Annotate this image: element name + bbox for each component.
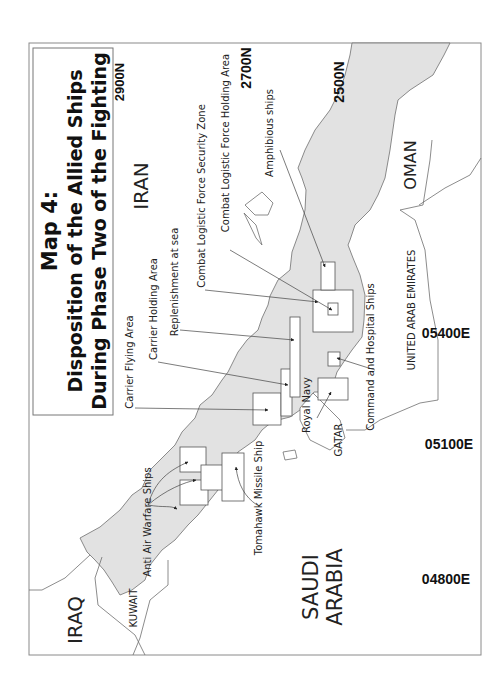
label-carrier-holding: Carrier Holding Area	[148, 258, 159, 360]
coord-05400e: 05400E	[422, 325, 470, 341]
country-oman: OMAN	[401, 140, 420, 189]
label-clf-holding: Combat Logistic Force Holding Area	[220, 54, 231, 232]
label-amphibious: Amphibious ships	[264, 89, 275, 177]
coord-2900n: 2900N	[112, 63, 127, 101]
zone-royal-navy	[318, 378, 348, 400]
country-iran: IRAN	[129, 162, 153, 210]
label-replenishment: Replenishment at sea	[169, 228, 180, 337]
zone-carrier-flying	[253, 393, 281, 425]
title-line-2: Disposition of the Allied Ships	[64, 70, 86, 393]
country-kuwait: KUWAIT	[128, 588, 139, 628]
country-uae: UNITED ARAB EMIRATES	[406, 250, 417, 371]
country-saudi-line1: SAUDI	[299, 554, 323, 620]
zone-command-hospital	[328, 352, 340, 366]
coord-2700n: 2700N	[238, 47, 254, 88]
island-small	[283, 450, 297, 460]
label-tomahawk: Tomahawk Missile Ship	[253, 441, 264, 557]
zone-anti-air-3	[201, 465, 223, 490]
label-anti-air: Anti Air Warfare Ships	[142, 467, 153, 576]
zone-tomahawk	[222, 453, 244, 501]
label-carrier-flying: Carrier Flying Area	[124, 315, 135, 408]
title-line-1: Map 4:	[38, 191, 62, 271]
label-royal-navy: Royal Navy	[301, 377, 312, 433]
label-clf-security: Combat Logistic Force Security Zone	[196, 104, 207, 288]
zone-clf-holding	[328, 303, 338, 315]
title-line-3: During Phase Two of the Fighting	[88, 52, 110, 409]
country-iraq: IRAQ	[63, 596, 87, 644]
country-saudi-line2: ARABIA	[323, 548, 347, 626]
zone-replenishment	[290, 317, 300, 397]
coord-04800e: 04800E	[422, 571, 470, 587]
coord-05100e: 05100E	[425, 436, 473, 452]
country-gatar: GATAR	[333, 423, 344, 456]
map-figure: Map 4: Disposition of the Allied Ships D…	[0, 0, 504, 693]
coord-2500n: 2500N	[331, 61, 347, 102]
label-command-hospital: Command and Hospital Ships	[365, 283, 376, 431]
zone-amphibious	[321, 262, 335, 290]
